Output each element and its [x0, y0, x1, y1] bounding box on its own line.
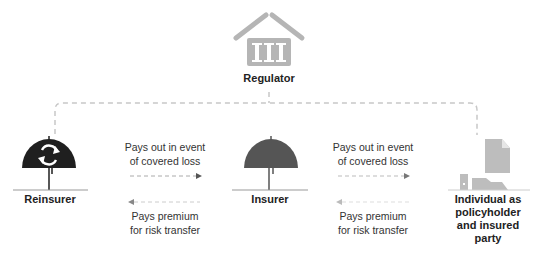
caption-line: for risk transfer	[110, 223, 220, 237]
bank-building-icon	[236, 15, 302, 66]
premium-arrow-left	[128, 199, 200, 205]
payout-caption-left: Pays out in event of covered loss	[110, 140, 220, 168]
payout-arrow-right	[338, 173, 410, 179]
individual-label: Individual as policyholder and insured p…	[440, 193, 536, 245]
individual-label-line: party	[440, 232, 536, 245]
reinsurer-label: Reinsurer	[10, 193, 90, 206]
caption-line: for risk transfer	[318, 223, 428, 237]
insurer-label: Insurer	[230, 193, 310, 206]
payout-caption-right: Pays out in event of covered loss	[318, 140, 428, 168]
regulator-label: Regulator	[229, 72, 309, 85]
individual-label-line: policyholder	[440, 206, 536, 219]
caption-line: Pays premium	[318, 209, 428, 223]
person-document-icon	[448, 139, 530, 190]
umbrella-recycle-icon	[13, 136, 88, 190]
caption-line: of covered loss	[110, 154, 220, 168]
individual-label-line: Individual as	[440, 193, 536, 206]
regulator-connector	[55, 92, 477, 135]
caption-line: of covered loss	[318, 154, 428, 168]
caption-line: Pays premium	[110, 209, 220, 223]
premium-arrow-right	[336, 199, 410, 205]
premium-caption-left: Pays premium for risk transfer	[110, 209, 220, 237]
payout-arrow-left	[130, 173, 202, 179]
umbrella-icon	[232, 136, 308, 190]
individual-label-line: and insured	[440, 219, 536, 232]
premium-caption-right: Pays premium for risk transfer	[318, 209, 428, 237]
caption-line: Pays out in event	[110, 140, 220, 154]
caption-line: Pays out in event	[318, 140, 428, 154]
